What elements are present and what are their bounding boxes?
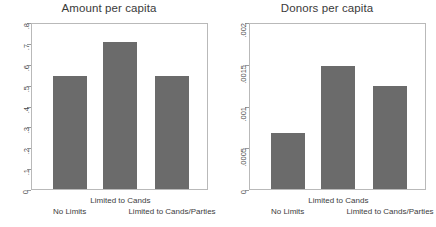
y-axis-tick-label-text: .4 [22,107,30,113]
y-axis-tick-label-text: .7 [22,44,30,50]
y-axis-tick-label-text: .002 [240,23,248,38]
y-axis-tick-label-text: .001 [240,107,248,122]
x-axis-labels: No LimitsLimited to CandsLimited to Cand… [0,190,218,226]
panel-title: Donors per capita [218,2,436,14]
bar [103,42,137,189]
bar [373,86,407,189]
bar [271,133,305,189]
panel-donors-per-capita: Donors per capita 0.0005.001.0015.002 No… [218,0,436,227]
y-axis-tick-label-text: .0015 [240,65,248,84]
x-axis-label: Limited to Cands/Parties [128,208,215,216]
x-axis-labels: No LimitsLimited to CandsLimited to Cand… [218,190,436,226]
y-axis-tick-label-text: .0005 [240,148,248,167]
x-axis-label: Limited to Cands/Parties [346,208,433,216]
y-axis-tick-label-text: .3 [22,127,30,133]
figure-two-panel-bar-charts: Amount per capita 0.1.2.3.4.5.6.7.8 No L… [0,0,436,227]
y-axis-tick-label-text: .1 [22,169,30,175]
panel-amount-per-capita: Amount per capita 0.1.2.3.4.5.6.7.8 No L… [0,0,218,227]
bar-group [32,24,207,189]
y-axis-tick-label-text: .5 [22,86,30,92]
bar-group [250,24,425,189]
x-axis-label: No Limits [53,208,86,216]
bar [321,66,355,189]
x-axis-label: No Limits [271,208,304,216]
bar [155,76,189,189]
x-axis-label: Limited to Cands [90,197,150,205]
panel-title: Amount per capita [0,2,218,14]
bar [53,76,87,189]
y-axis-tick-label-text: .6 [22,65,30,71]
x-axis-label: Limited to Cands [308,197,368,205]
y-axis-tick-label-text: .8 [22,23,30,29]
y-axis-tick-label-text: .2 [22,148,30,154]
